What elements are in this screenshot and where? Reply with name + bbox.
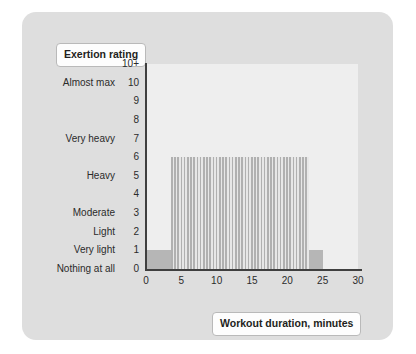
y-tick-9: 9 bbox=[115, 96, 139, 106]
x-tick-25: 25 bbox=[317, 276, 328, 286]
y-axis-tick-labels: 10+Almost max1098Very heavy76Heavy54Mode… bbox=[0, 0, 139, 354]
x-tick-0: 0 bbox=[143, 276, 149, 286]
y-tick-number: 2 bbox=[121, 227, 139, 237]
y-tick-number: 8 bbox=[121, 115, 139, 125]
x-axis-tick-labels: 051015202530 bbox=[0, 276, 416, 292]
plot-area bbox=[146, 64, 358, 269]
y-tick-number: 5 bbox=[121, 171, 139, 181]
y-tick-6: 6 bbox=[115, 152, 139, 162]
y-tick-description: Moderate bbox=[73, 208, 115, 218]
y-tick-description: Nothing at all bbox=[57, 264, 115, 274]
y-tick-5: Heavy5 bbox=[87, 171, 139, 181]
y-tick-number: 3 bbox=[121, 208, 139, 218]
y-tick-description: Very light bbox=[74, 245, 115, 255]
x-tick-15: 15 bbox=[246, 276, 257, 286]
y-tick-1: Very light1 bbox=[74, 245, 139, 255]
y-tick-description: Almost max bbox=[63, 78, 115, 88]
y-tick-10: Almost max10 bbox=[63, 78, 139, 88]
y-tick-description: Very heavy bbox=[66, 134, 115, 144]
x-tick-20: 20 bbox=[282, 276, 293, 286]
x-axis-title: Workout duration, minutes bbox=[212, 312, 361, 336]
x-tick-10: 10 bbox=[211, 276, 222, 286]
y-tick-number: 10+ bbox=[121, 59, 139, 69]
y-tick-number: 6 bbox=[121, 152, 139, 162]
main-effort-band bbox=[171, 157, 309, 269]
y-tick-number: 9 bbox=[121, 96, 139, 106]
y-tick-number: 0 bbox=[121, 264, 139, 274]
x-tick-5: 5 bbox=[179, 276, 185, 286]
y-axis-line bbox=[145, 63, 147, 270]
y-tick-0: Nothing at all0 bbox=[57, 264, 139, 274]
x-tick-30: 30 bbox=[352, 276, 363, 286]
y-tick-number: 1 bbox=[121, 245, 139, 255]
y-tick-description: Heavy bbox=[87, 171, 115, 181]
y-tick-3: Moderate3 bbox=[73, 208, 139, 218]
y-tick-2: Light2 bbox=[93, 227, 139, 237]
y-tick-4: 4 bbox=[115, 189, 139, 199]
x-axis-line bbox=[145, 269, 362, 271]
y-tick-description: Light bbox=[93, 227, 115, 237]
y-tick-number: 4 bbox=[121, 189, 139, 199]
y-tick-8: 8 bbox=[115, 115, 139, 125]
y-tick-7: Very heavy7 bbox=[66, 134, 139, 144]
y-tick-number: 7 bbox=[121, 134, 139, 144]
y-tick-number: 10 bbox=[121, 78, 139, 88]
y-tick-10plus: 10+ bbox=[115, 59, 139, 69]
